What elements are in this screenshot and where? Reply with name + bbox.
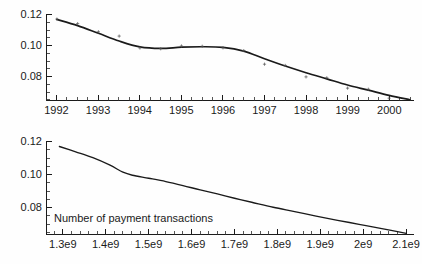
top-panel-curve <box>57 19 410 99</box>
bottom-x-tick-label-4: 1.7e9 <box>221 238 249 250</box>
data-point-marker <box>346 87 349 90</box>
bottom-x-tick-label-5: 1.8e9 <box>264 238 292 250</box>
bottom-y-tick-label-2: 0.08 <box>21 201 42 213</box>
top-y-tick-label-0: 0.12 <box>21 8 42 20</box>
top-panel-data-points <box>55 18 390 100</box>
top-y-major-ticks <box>47 15 53 77</box>
bottom-x-tick-label-7: 2e9 <box>354 238 372 250</box>
top-x-tick-label-1: 1993 <box>86 104 110 116</box>
bottom-x-tick-label-2: 1.5e9 <box>135 238 163 250</box>
top-x-major-ticks <box>57 95 390 101</box>
bottom-x-tick-label-1: 1.4e9 <box>92 238 120 250</box>
data-point-marker <box>387 97 390 100</box>
bottom-panel: 0.12 0.10 0.08 <box>21 135 420 250</box>
top-x-tick-label-4: 1996 <box>211 104 235 116</box>
bottom-y-major-ticks <box>47 142 53 208</box>
bottom-panel-annotation: Number of payment transactions <box>54 212 213 224</box>
top-x-tick-label-2: 1994 <box>127 104 151 116</box>
bottom-x-tick-label-0: 1.3e9 <box>49 238 77 250</box>
top-x-tick-label-5: 1997 <box>252 104 276 116</box>
bottom-x-tick-label-6: 1.9e9 <box>306 238 334 250</box>
top-x-tick-label-8: 2000 <box>377 104 401 116</box>
bottom-x-tick-label-3: 1.6e9 <box>178 238 206 250</box>
bottom-y-tick-label-1: 0.10 <box>21 168 42 180</box>
chart-canvas: 0.12 0.10 0.08 <box>0 0 422 264</box>
top-x-tick-label-6: 1998 <box>294 104 318 116</box>
data-point-marker <box>118 34 121 37</box>
top-x-tick-label-3: 1995 <box>169 104 193 116</box>
top-y-tick-label-1: 0.10 <box>21 39 42 51</box>
data-point-marker <box>263 63 266 66</box>
top-panel: 0.12 0.10 0.08 <box>21 8 414 116</box>
data-point-marker <box>304 75 307 78</box>
top-x-tick-label-7: 1999 <box>335 104 359 116</box>
bottom-y-tick-label-0: 0.12 <box>21 135 42 147</box>
top-y-tick-label-2: 0.08 <box>21 70 42 82</box>
top-x-tick-label-0: 1992 <box>44 104 68 116</box>
two-panel-line-chart-figure: 0.12 0.10 0.08 <box>0 0 422 264</box>
bottom-x-tick-label-8: 2.1e9 <box>392 238 420 250</box>
